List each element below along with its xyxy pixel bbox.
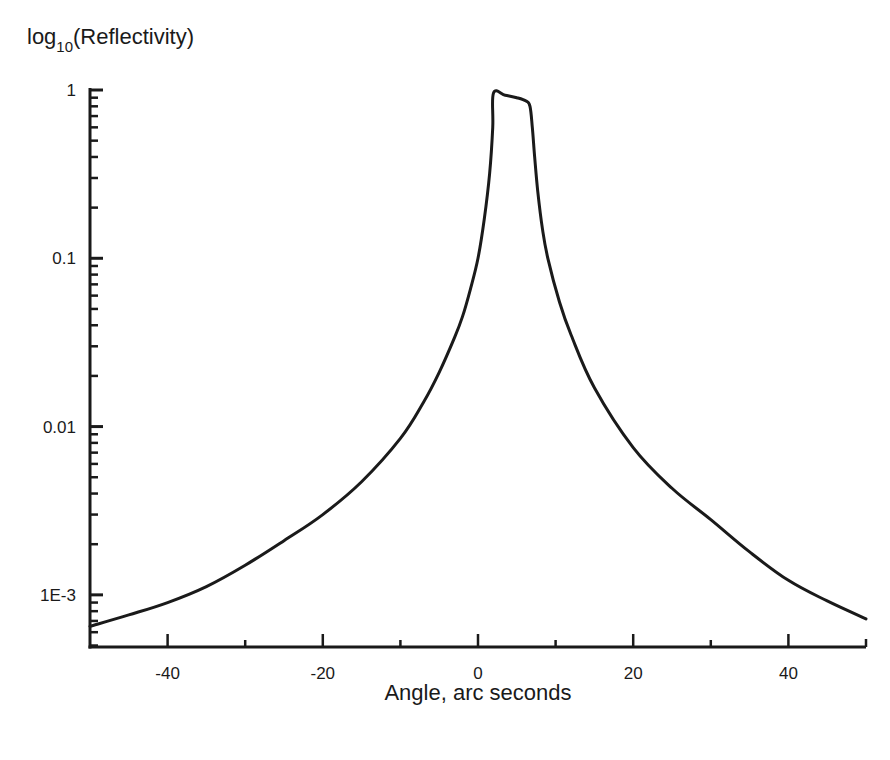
- y-tick-label: 1: [67, 81, 76, 100]
- x-tick-label: -40: [155, 664, 180, 683]
- reflectivity-chart: log10(Reflectivity) 10.10.011E-3 -40-200…: [0, 0, 890, 760]
- y-tick-label: 1E-3: [40, 586, 76, 605]
- series-layer: [90, 91, 866, 627]
- svg-text:log10(Reflectivity): log10(Reflectivity): [27, 24, 194, 55]
- y-tick-label: 0.01: [43, 418, 76, 437]
- y-axis-title: log10(Reflectivity): [27, 24, 194, 55]
- series-line-reflectivity: [90, 91, 866, 627]
- x-axis-title: Angle, arc seconds: [384, 680, 571, 705]
- y-axis-title-subscript: 10: [56, 38, 73, 55]
- x-tick-label: 40: [779, 664, 798, 683]
- y-axis-title-suffix: (Reflectivity): [73, 24, 194, 49]
- x-ticks: -40-2002040: [155, 634, 866, 683]
- y-axis-title-prefix: log: [27, 24, 56, 49]
- x-tick-label: -20: [311, 664, 336, 683]
- y-tick-label: 0.1: [52, 249, 76, 268]
- y-ticks: 10.10.011E-3: [40, 81, 103, 646]
- x-tick-label: 20: [624, 664, 643, 683]
